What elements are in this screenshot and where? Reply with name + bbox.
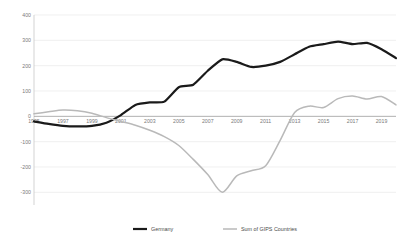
- line-chart: 4003002001000-100-200-300 19951997199920…: [0, 0, 406, 247]
- x-axis-tick-labels: 1995199719992001200320052007200920112013…: [28, 118, 387, 124]
- x-tick-label-2005: 2005: [173, 118, 185, 124]
- chart-legend: GermanySum of GIPS Countries: [133, 226, 297, 232]
- y-tick-label--200: -200: [21, 164, 31, 170]
- legend-label-sum-of-gips-countries: Sum of GIPS Countries: [241, 226, 297, 232]
- series-lines-group: [34, 42, 396, 193]
- series-line-sum-of-gips-countries: [34, 96, 396, 192]
- series-line-germany: [34, 42, 396, 127]
- x-tick-label-2015: 2015: [318, 118, 330, 124]
- y-tick-label--300: -300: [21, 189, 31, 195]
- y-axis-tick-labels: 4003002001000-100-200-300: [21, 12, 32, 195]
- y-tick-label-200: 200: [22, 63, 31, 69]
- y-tick-label-100: 100: [22, 88, 31, 94]
- x-tick-label-1999: 1999: [86, 118, 98, 124]
- chart-container: 4003002001000-100-200-300 19951997199920…: [0, 0, 406, 247]
- y-tick-label-300: 300: [22, 37, 31, 43]
- x-tick-label-2007: 2007: [202, 118, 214, 124]
- legend-label-germany: Germany: [151, 226, 173, 232]
- x-tick-label-2011: 2011: [260, 118, 271, 124]
- x-tick-label-2019: 2019: [376, 118, 388, 124]
- x-tick-label-2017: 2017: [347, 118, 359, 124]
- y-tick-label--100: -100: [21, 139, 31, 145]
- x-tick-label-1997: 1997: [57, 118, 69, 124]
- y-tick-label-400: 400: [22, 12, 31, 18]
- x-tick-label-2009: 2009: [231, 118, 243, 124]
- x-tick-label-2003: 2003: [144, 118, 156, 124]
